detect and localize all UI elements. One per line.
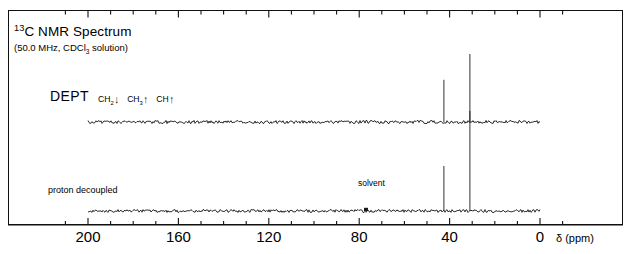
chemical-shift-axis: 20016012080400 bbox=[8, 11, 623, 245]
proton-decoupled-trace bbox=[88, 111, 540, 213]
axis-tick-label: 40 bbox=[441, 228, 458, 245]
axis-tick-label: 120 bbox=[256, 228, 281, 245]
axis-tick-label: 80 bbox=[351, 228, 368, 245]
dept-trace bbox=[88, 54, 540, 124]
axis-tick-label: 0 bbox=[536, 228, 544, 245]
axis-tick-label: 160 bbox=[166, 228, 191, 245]
spectra-layer: 20016012080400 bbox=[0, 0, 632, 254]
nmr-spectrum-figure: 13C NMR Spectrum (50.0 MHz, CDCl3 soluti… bbox=[0, 0, 632, 254]
axis-tick-label: 200 bbox=[75, 228, 100, 245]
